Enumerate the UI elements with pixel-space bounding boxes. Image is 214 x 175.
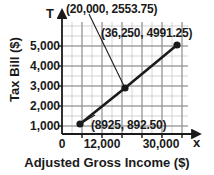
y-axis-label: Tax Bill ($) xyxy=(7,22,22,118)
x-tick-label-0: 0 xyxy=(54,137,70,151)
y-tick-label-2000: 2,000 xyxy=(18,99,60,113)
x-tick-label-12000: 12,000 xyxy=(80,137,124,151)
annotation-point-8925: (8925, 892.50) xyxy=(91,118,166,132)
data-point-marker-3 xyxy=(173,41,180,48)
tax-bill-chart-figure: T x (20,000, 2553.75) (36,250, 4991.25) … xyxy=(0,0,214,175)
data-point-marker-1 xyxy=(76,120,83,127)
annotation-point-36250: (36,250, 4991.25) xyxy=(101,26,192,40)
x-axis-name: x xyxy=(193,135,200,150)
annotation-point-20000: (20,000, 2553.75) xyxy=(66,2,157,16)
y-tick-label-5000: 5,000 xyxy=(18,39,60,53)
data-point-marker-2 xyxy=(121,84,128,91)
y-tick-label-3000: 3,000 xyxy=(18,79,60,93)
x-axis-label: Adjusted Gross Income ($) xyxy=(0,155,214,170)
y-tick-label-1000: 1,000 xyxy=(18,119,60,133)
y-tick-label-4000: 4,000 xyxy=(18,59,60,73)
x-tick-label-30000: 30,000 xyxy=(139,137,183,151)
